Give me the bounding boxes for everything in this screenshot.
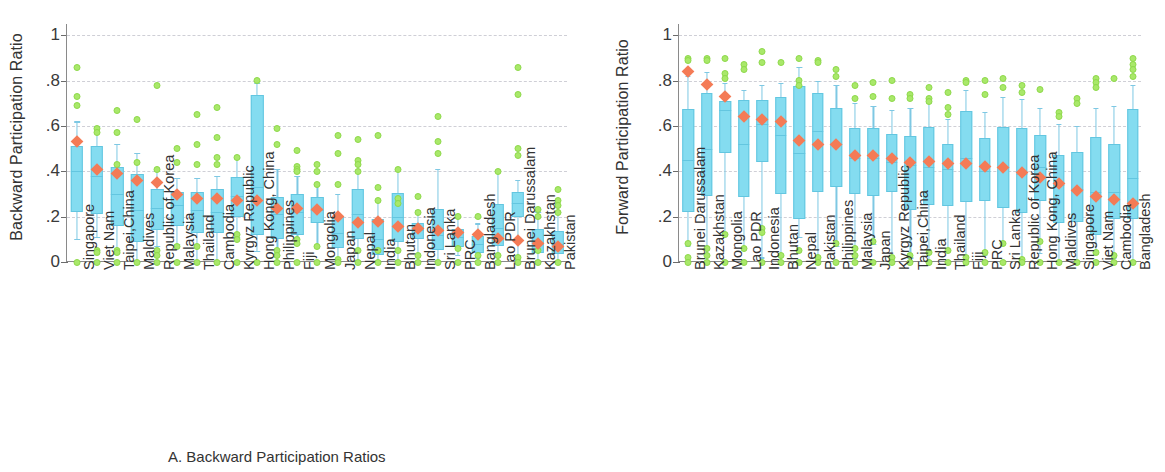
outlier-point — [374, 197, 381, 204]
x-axis-category-label: PRC — [462, 239, 478, 270]
x-axis-category-label: Sri Lanka — [1007, 209, 1023, 270]
x-axis-category-label: Bhutan — [785, 224, 801, 270]
x-axis-category-label: Taipei,China — [121, 190, 137, 270]
whisker-cap — [982, 112, 987, 113]
outlier-point — [334, 181, 341, 188]
outlier-point — [254, 77, 261, 84]
box-iqr[interactable] — [775, 97, 786, 194]
x-axis-category-label: Mongolia — [322, 211, 338, 270]
x-axis-category-label: Kyrgyz Republic — [241, 165, 257, 270]
y-axis-ticks-backward: 0.2.4.6.81 — [20, 0, 60, 472]
whisker-cap — [295, 176, 301, 177]
box-plot-group[interactable] — [975, 24, 994, 261]
x-axis-category-label: Japan — [342, 230, 358, 270]
outlier-point — [414, 193, 421, 200]
outlier-point — [1055, 113, 1062, 120]
outlier-point — [214, 104, 221, 111]
y-tick-label: .4 — [26, 161, 60, 181]
box-iqr[interactable] — [720, 101, 731, 153]
outlier-point — [274, 141, 281, 148]
x-axis-category-label: Pakistan — [562, 214, 578, 270]
x-axis-category-label: Philippines — [281, 200, 297, 270]
median-line — [71, 171, 83, 172]
x-axis-category-label: Thailand — [201, 214, 217, 270]
y-tick-label: .2 — [26, 207, 60, 227]
box-iqr[interactable] — [71, 146, 83, 212]
box-iqr[interactable] — [942, 144, 953, 206]
x-axis-category-label: Singapore — [81, 204, 97, 270]
y-tick-label: .6 — [26, 116, 60, 136]
whisker-cap — [1093, 108, 1098, 109]
outlier-point — [74, 93, 81, 100]
outlier-point — [74, 64, 81, 71]
outlier-point — [474, 213, 481, 220]
outlier-point — [354, 136, 361, 143]
y-tick-label: .4 — [638, 161, 672, 181]
outlier-point — [1111, 75, 1118, 82]
outlier-point — [833, 73, 840, 80]
whisker-cap — [515, 180, 521, 181]
box-iqr[interactable] — [868, 128, 879, 196]
outlier-point — [926, 84, 933, 91]
x-axis-category-label: Fiji — [301, 251, 317, 270]
outlier-point — [981, 77, 988, 84]
whisker-cap — [74, 239, 80, 240]
outlier-point — [334, 150, 341, 157]
x-axis-category-label: Viet Nam — [101, 211, 117, 270]
whisker-cap — [797, 67, 802, 68]
x-axis-category-label: Malaysia — [181, 213, 197, 270]
x-axis-category-label: India — [933, 239, 949, 270]
outlier-point — [394, 166, 401, 173]
whisker-cap — [1038, 108, 1043, 109]
median-line — [191, 210, 203, 211]
whisker-cap — [723, 83, 728, 84]
y-tick-label: 0 — [638, 252, 672, 272]
box-plot-group[interactable] — [368, 24, 388, 261]
whisker-cap — [963, 90, 968, 91]
whisker-cap — [134, 153, 140, 154]
outlier-point — [944, 89, 951, 96]
outlier-point — [907, 95, 914, 102]
outlier-point — [554, 186, 561, 193]
x-axis-category-label: Bhutan — [402, 224, 418, 270]
outlier-point — [685, 57, 692, 64]
x-axis-category-label: Thailand — [952, 214, 968, 270]
whisker-cap — [889, 110, 894, 111]
whisker-cap — [908, 108, 913, 109]
outlier-point — [274, 125, 281, 132]
outlier-point — [74, 259, 81, 266]
x-axis-category-label: Sri Lanka — [442, 209, 458, 270]
outlier-point — [796, 82, 803, 89]
box-iqr[interactable] — [757, 100, 768, 162]
outlier-point — [234, 154, 241, 161]
outlier-point — [434, 113, 441, 120]
outlier-point — [394, 200, 401, 207]
x-axis-category-label: Brunei Darussalam — [522, 147, 538, 270]
median-line — [812, 131, 823, 132]
whisker-cap — [74, 121, 80, 122]
outlier-point — [851, 82, 858, 89]
outlier-point — [685, 259, 692, 266]
outlier-point — [963, 79, 970, 86]
y-tick-mark — [673, 262, 680, 263]
outlier-point — [434, 138, 441, 145]
x-axis-category-label: Hong Kong, China — [1044, 152, 1060, 271]
outlier-point — [134, 116, 141, 123]
outlier-point — [703, 57, 710, 64]
box-plot-group[interactable] — [348, 24, 368, 261]
whisker-cap — [435, 169, 441, 170]
whisker-cap — [871, 106, 876, 107]
outlier-point — [194, 111, 201, 118]
x-axis-category-label: Fiji — [970, 251, 986, 270]
x-axis-category-label: PRC — [989, 239, 1005, 270]
outlier-point — [414, 209, 421, 216]
outlier-point — [1000, 75, 1007, 82]
x-axis-category-label: Bangladesh — [482, 193, 498, 270]
outlier-point — [514, 64, 521, 71]
outlier-point — [888, 77, 895, 84]
x-axis-category-label: Cambodia — [221, 204, 237, 270]
y-tick-label: .8 — [638, 71, 672, 91]
whisker-cap — [1019, 99, 1024, 100]
outlier-point — [194, 141, 201, 148]
outlier-point — [114, 129, 121, 136]
